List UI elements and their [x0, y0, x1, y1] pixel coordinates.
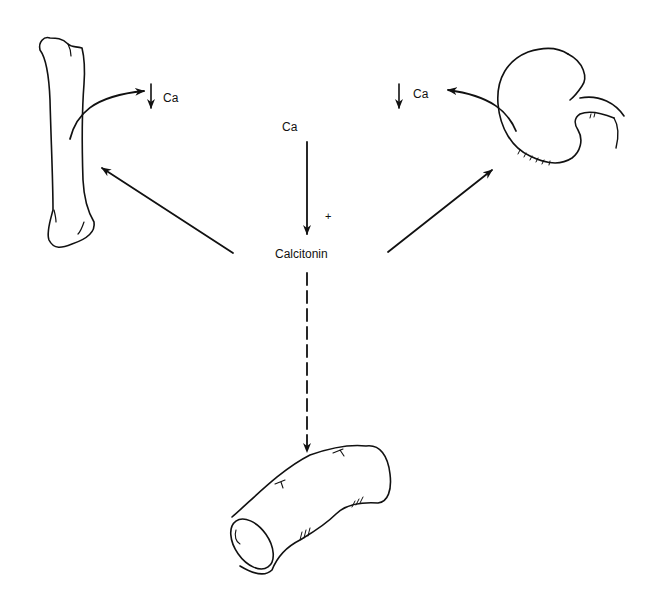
- bone-ca-label: Ca: [163, 91, 179, 105]
- stimulus-ca-label: Ca: [282, 120, 298, 134]
- bone-icon: [40, 38, 95, 248]
- positive-sign: +: [325, 210, 331, 222]
- kidney-icon: [498, 49, 624, 166]
- kidney-ca-excretion-arrow: [448, 90, 516, 131]
- calcitonin-diagram: Ca Ca Ca + Calcitonin: [0, 0, 650, 596]
- calcitonin-to-kidney-arrow: [388, 170, 492, 252]
- intestine-icon: [222, 445, 390, 576]
- bone-ca-release-arrow: [70, 91, 144, 139]
- calcitonin-label: Calcitonin: [275, 247, 328, 261]
- kidney-ca-label: Ca: [413, 87, 429, 101]
- calcitonin-to-bone-arrow: [102, 168, 233, 253]
